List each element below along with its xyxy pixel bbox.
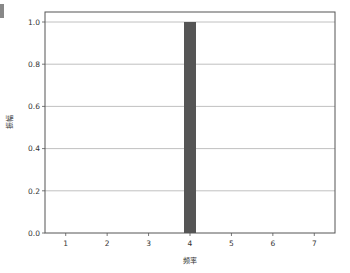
y-tick-label: 0.8	[28, 60, 40, 69]
x-tick-label: 6	[270, 239, 275, 248]
x-axis-label: 频率	[183, 256, 197, 265]
x-tick-label: 4	[188, 239, 193, 248]
x-tick-label: 2	[105, 239, 110, 248]
bar-chart: 0.00.20.40.60.81.0 1234567 频率 振幅	[0, 0, 350, 273]
x-axis-ticks: 1234567	[63, 233, 317, 248]
x-tick-label: 7	[312, 239, 317, 248]
y-tick-label: 0.2	[28, 187, 40, 196]
bars	[184, 22, 196, 233]
y-tick-label: 0.4	[28, 144, 40, 153]
y-tick-label: 0.0	[28, 229, 40, 238]
y-axis-ticks: 0.00.20.40.60.81.0	[28, 18, 45, 238]
x-tick-label: 3	[146, 239, 151, 248]
y-tick-label: 0.6	[28, 102, 40, 111]
x-tick-label: 5	[229, 239, 234, 248]
bar	[184, 22, 196, 233]
x-tick-label: 1	[63, 239, 68, 248]
y-tick-label: 1.0	[28, 18, 40, 27]
y-axis-label: 振幅	[5, 115, 14, 129]
